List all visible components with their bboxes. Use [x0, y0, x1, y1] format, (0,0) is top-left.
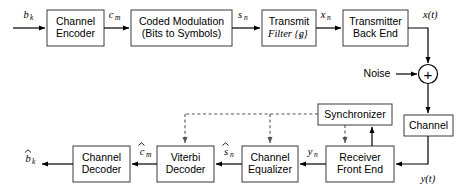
label-c-m: c m [109, 9, 121, 21]
label-x-n: x n [320, 9, 331, 21]
label-c-m-hat: c m [139, 143, 153, 159]
svg-text:m: m [146, 150, 152, 159]
block-synchronizer[interactable]: Synchronizer [318, 104, 392, 125]
block-channel-encoder-line2: Encoder [56, 27, 96, 39]
block-transmitter-back-end[interactable]: Transmitter Back End [343, 10, 408, 46]
svg-text:c: c [109, 9, 114, 20]
block-channel-equalizer-line1: Channel [250, 151, 289, 163]
arrow-channel-to-receiver-front-end [396, 136, 428, 164]
hat-accent-s-n [223, 143, 229, 146]
block-transmitter-back-end-line2: Back End [353, 27, 398, 39]
block-transmit-filter[interactable]: Transmit Filter {g i } [262, 10, 316, 46]
svg-text:s: s [238, 9, 242, 20]
block-channel-equalizer[interactable]: Channel Equalizer [242, 146, 298, 182]
block-transmit-filter-line2: Filter {g [267, 28, 304, 39]
block-channel-encoder[interactable]: Channel Encoder [47, 10, 104, 46]
svg-text:x(t): x(t) [422, 9, 438, 21]
label-y-n: y n [307, 146, 318, 158]
block-synchronizer-label: Synchronizer [324, 108, 386, 120]
label-s-n: s n [238, 9, 248, 21]
svg-text:b: b [25, 153, 30, 164]
block-receiver-front-end[interactable]: Receiver Front End [326, 146, 394, 182]
block-channel-decoder-line2: Decoder [82, 163, 122, 175]
diagram-canvas: Channel Encoder Coded Modulation (Bits t… [0, 0, 467, 195]
block-coded-modulation-line1: Coded Modulation [139, 15, 224, 27]
block-channel[interactable]: Channel [404, 115, 453, 136]
label-noise: Noise [364, 67, 391, 79]
svg-text:n: n [244, 13, 248, 22]
block-viterbi-decoder-line2: Decoder [166, 163, 206, 175]
svg-text:y(t): y(t) [420, 173, 436, 185]
block-channel-equalizer-line2: Equalizer [248, 163, 292, 175]
svg-text:y: y [307, 146, 313, 157]
block-channel-encoder-line1: Channel [56, 15, 95, 27]
label-b-k: b k [23, 9, 34, 21]
block-receiver-front-end-line2: Front End [337, 163, 383, 175]
label-y-of-t: y(t) [420, 173, 436, 185]
block-coded-modulation-line2: (Bits to Symbols) [142, 27, 221, 39]
block-viterbi-decoder-line1: Viterbi [171, 151, 201, 163]
svg-text:n: n [314, 150, 318, 159]
block-transmit-filter-line1: Transmit [269, 15, 310, 27]
svg-text:k: k [32, 157, 36, 166]
block-diagram-figure: Channel Encoder Coded Modulation (Bits t… [0, 0, 467, 195]
svg-text:s: s [224, 146, 228, 157]
hat-accent-b-k [25, 150, 31, 153]
label-s-n-hat: s n [223, 143, 235, 159]
block-channel-label: Channel [409, 119, 448, 131]
svg-text:b: b [23, 9, 28, 20]
label-b-k-hat: b k [25, 150, 36, 166]
block-transmitter-back-end-line1: Transmitter [349, 15, 402, 27]
svg-text:n: n [327, 13, 331, 22]
hat-accent-c-m [139, 143, 145, 146]
svg-text:m: m [115, 13, 121, 22]
arrow-transmitter-back-end-to-summer [408, 28, 428, 63]
block-transmit-filter-subscript: i [300, 31, 302, 40]
block-receiver-front-end-line1: Receiver [339, 151, 381, 163]
block-coded-modulation[interactable]: Coded Modulation (Bits to Symbols) [131, 10, 232, 46]
svg-text:k: k [30, 13, 34, 22]
summing-junction[interactable]: + [419, 65, 438, 84]
svg-text:x: x [320, 9, 326, 20]
block-channel-decoder-line1: Channel [82, 151, 121, 163]
label-x-of-t: x(t) [422, 9, 438, 21]
block-viterbi-decoder[interactable]: Viterbi Decoder [157, 146, 214, 182]
block-channel-decoder[interactable]: Channel Decoder [73, 146, 130, 182]
summing-junction-plus-symbol: + [424, 66, 433, 83]
svg-text:c: c [140, 146, 145, 157]
svg-text:n: n [230, 150, 234, 159]
